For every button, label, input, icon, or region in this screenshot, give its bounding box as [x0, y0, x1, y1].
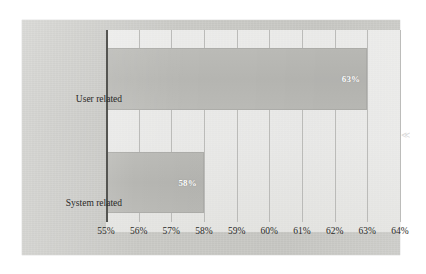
- value-tick-label: 57%: [163, 226, 180, 236]
- value-tick-label: 61%: [293, 226, 310, 236]
- gridline: [400, 30, 401, 222]
- plot-area: 63%58%: [106, 30, 400, 222]
- bar-value-label: 63%: [342, 74, 361, 84]
- scan-edge-artifact: ≪: [401, 130, 411, 140]
- gridline: [367, 30, 368, 222]
- value-tick-label: 56%: [130, 226, 147, 236]
- category-label: System related: [66, 198, 122, 208]
- category-label: User related: [76, 94, 122, 104]
- value-tick-label: 59%: [228, 226, 245, 236]
- bar-value-label: 58%: [178, 178, 197, 188]
- bar: 63%: [106, 48, 367, 110]
- value-axis-tick-labels: 55%56%57%58%59%60%61%62%63%64%: [106, 226, 400, 244]
- value-tick-label: 62%: [326, 226, 343, 236]
- chart-panel: 63%58% User relatedSystem related 55%56%…: [22, 20, 400, 255]
- value-tick-label: 64%: [391, 226, 408, 236]
- value-tick-label: 63%: [359, 226, 376, 236]
- value-tick-label: 55%: [97, 226, 114, 236]
- scanned-page: 63%58% User relatedSystem related 55%56%…: [0, 0, 426, 274]
- value-tick-label: 60%: [261, 226, 278, 236]
- value-tick-label: 58%: [195, 226, 212, 236]
